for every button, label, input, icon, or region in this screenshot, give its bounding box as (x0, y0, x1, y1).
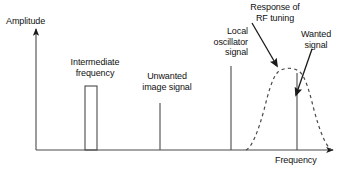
intermediate-frequency-bar (85, 86, 97, 150)
intermediate-frequency-label: Intermediate frequency (52, 57, 138, 78)
unwanted-image-signal-label: Unwanted image signal (128, 71, 206, 92)
spectrum-diagram: Amplitude Intermediate frequency Unwante… (0, 0, 346, 177)
x-axis-label: Frequency (275, 155, 345, 166)
local-oscillator-signal-label: Local oscillator signal (182, 26, 248, 58)
response-of-rf-tuning-label: Response of RF tuning (238, 2, 312, 23)
rf-tuning-response-curve (246, 68, 332, 150)
rf-tuning-arrow (252, 23, 277, 66)
wanted-signal-label: Wanted signal (288, 29, 344, 50)
y-axis-label: Amplitude (6, 16, 74, 27)
wanted-signal-arrow (296, 49, 312, 95)
